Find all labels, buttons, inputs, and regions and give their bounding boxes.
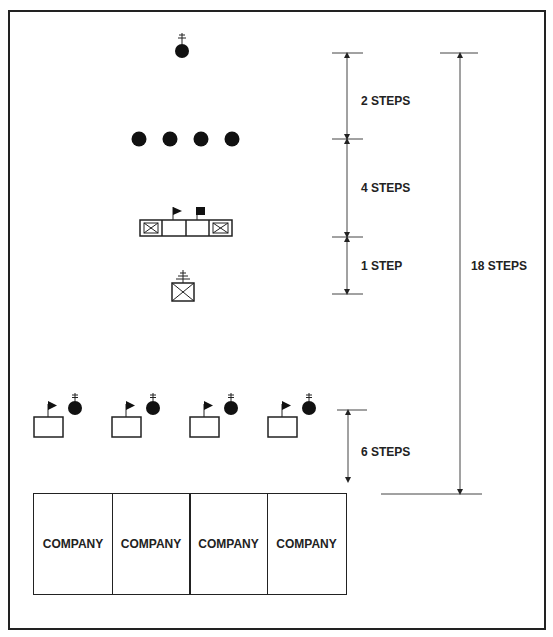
square-flag-icon [196, 207, 205, 215]
circle-icon [163, 132, 178, 147]
company-label: COMPANY [43, 537, 103, 551]
label-18-steps: 18 STEPS [471, 259, 527, 273]
company-box: COMPANY [33, 493, 113, 595]
company-box: COMPANY [267, 493, 347, 595]
circle-icon [132, 132, 147, 147]
step-dimension-lines [332, 53, 482, 494]
company-box: COMPANY [112, 493, 191, 595]
label-6-steps: 6 STEPS [361, 445, 410, 459]
company-label: COMPANY [276, 537, 336, 551]
circle-icon [194, 132, 209, 147]
company-box: COMPANY [189, 493, 268, 595]
flag-box-group [34, 393, 316, 437]
label-2-steps: 2 STEPS [361, 94, 410, 108]
company-label: COMPANY [198, 537, 258, 551]
commander-circle-icon [175, 33, 189, 58]
label-4-steps: 4 STEPS [361, 181, 410, 195]
circles-row [132, 132, 240, 147]
staff-box-icon [172, 270, 194, 301]
label-1-step: 1 STEP [361, 259, 402, 273]
company-label: COMPANY [121, 537, 181, 551]
circle-icon [225, 132, 240, 147]
flag-icon [173, 207, 182, 215]
headquarters-block-icon [140, 207, 232, 236]
